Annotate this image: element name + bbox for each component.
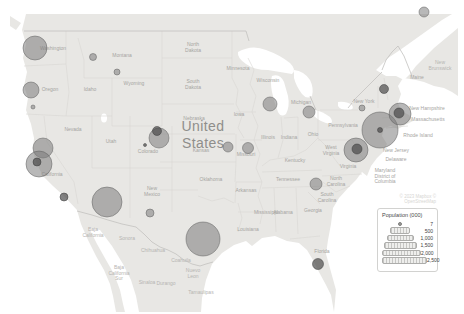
legend-value: 2,500 — [427, 257, 440, 263]
legend-row: 1,000 — [382, 234, 433, 241]
map-label: Nevada — [64, 126, 81, 132]
legend-size-bar — [387, 235, 414, 242]
map-label: Massachusetts — [411, 116, 445, 122]
legend-row: 500 — [382, 227, 433, 234]
legend-min-value: 7 — [418, 221, 433, 227]
map-label: Delaware — [385, 156, 406, 162]
legend-min-dot-icon — [398, 222, 402, 226]
map-label: Alabama — [273, 209, 293, 215]
legend-value: 2,000 — [421, 250, 434, 256]
country-label-line2: States — [182, 135, 224, 151]
map-label: Pennsylvania — [328, 122, 358, 128]
map-label: Minnesota — [226, 65, 249, 71]
population-bubble[interactable] — [31, 105, 35, 109]
legend-min-row: 7 — [382, 220, 433, 227]
map-label: Montana — [112, 52, 132, 58]
map-label: Illinois — [261, 134, 275, 140]
great-salt-lake — [101, 114, 107, 123]
map-label: Oklahoma — [200, 176, 223, 182]
map-label: Wyoming — [124, 80, 145, 86]
map-label: Indiana — [281, 134, 298, 140]
population-bubble[interactable] — [359, 105, 365, 111]
map-label: Louisiana — [237, 226, 259, 232]
map-label: Iowa — [234, 111, 245, 117]
population-bubble[interactable] — [114, 69, 120, 75]
legend-title: Population (000) — [382, 212, 433, 218]
population-bubble[interactable] — [313, 259, 324, 270]
population-bubble[interactable] — [23, 36, 47, 60]
population-bubble[interactable] — [90, 54, 97, 61]
map-label: Florida — [314, 248, 330, 254]
map-label: Rhode Island — [403, 132, 433, 138]
map-label: Chihuahua — [141, 247, 165, 253]
size-legend: Population (000) 7 5001,0001,5002,0002,5… — [377, 208, 438, 272]
map-label: New Hampshire — [409, 105, 445, 111]
map-viewport[interactable]: WashingtonOregonIdahoMontanaWyomingNevad… — [0, 0, 464, 314]
map-label: Michigan — [291, 99, 311, 105]
population-bubble[interactable] — [144, 144, 147, 147]
map-label: Durango — [156, 280, 175, 286]
map-label: Arkansas — [236, 187, 257, 193]
legend-row: 1,500 — [382, 242, 433, 249]
population-bubble[interactable] — [33, 158, 41, 166]
map-label: Sonora — [119, 235, 135, 241]
map-label: Georgia — [304, 207, 322, 213]
population-bubble[interactable] — [263, 97, 277, 111]
country-label: United States — [182, 118, 225, 151]
legend-rows: 5001,0001,5002,0002,500 — [382, 227, 433, 264]
population-bubble[interactable] — [380, 85, 389, 94]
map-label: Coahuila — [171, 257, 191, 263]
population-bubble[interactable] — [186, 222, 220, 256]
map-attribution[interactable]: © 2023 Mapbox © OpenStreetMap — [378, 194, 436, 204]
legend-size-bar — [382, 250, 421, 257]
country-label-line1: United — [182, 118, 225, 134]
legend-row: 2,000 — [382, 249, 433, 256]
population-bubble[interactable] — [419, 7, 429, 17]
legend-value: 500 — [418, 228, 433, 234]
population-bubble[interactable] — [352, 144, 362, 154]
legend-row: 2,500 — [382, 257, 433, 264]
map-label: SouthDakota — [185, 78, 201, 90]
population-bubble[interactable] — [394, 108, 404, 118]
map-label: Wisconsin — [257, 77, 280, 83]
map-label: New York — [353, 98, 375, 104]
legend-value: 1,000 — [418, 235, 433, 241]
population-bubble[interactable] — [153, 127, 162, 136]
population-bubble[interactable] — [223, 142, 233, 152]
legend-size-bar — [382, 257, 427, 264]
map-label: Utah — [106, 138, 117, 144]
map-label: New Jersey — [383, 147, 410, 153]
population-bubble[interactable] — [310, 178, 322, 190]
map-label: Colorado — [138, 148, 159, 154]
population-bubble[interactable] — [23, 82, 39, 98]
population-bubble[interactable] — [243, 143, 254, 154]
map-label: Tamaulipas — [188, 289, 214, 295]
legend-value: 1,500 — [418, 242, 433, 248]
population-bubble[interactable] — [146, 209, 154, 217]
map-label: Virginia — [340, 163, 357, 169]
population-bubble[interactable] — [378, 128, 383, 133]
legend-size-bar — [384, 242, 417, 249]
map-label: NorthDakota — [185, 41, 201, 53]
population-bubble[interactable] — [303, 106, 315, 118]
map-label: Oregon — [42, 86, 59, 92]
population-bubble[interactable] — [60, 193, 68, 201]
map-label: Idaho — [84, 86, 97, 92]
map-label: MarylandDistrict ofColumbia — [374, 167, 396, 184]
map-label: Tennessee — [276, 176, 300, 182]
map-label: Maine — [410, 74, 424, 80]
population-bubble[interactable] — [92, 187, 122, 217]
map-label: Ohio — [308, 131, 319, 137]
legend-size-bar — [390, 227, 410, 234]
map-label: NuevoLeon — [186, 267, 201, 279]
map-label: Sinaloa — [139, 279, 156, 285]
map-label: Kentucky — [285, 157, 306, 163]
